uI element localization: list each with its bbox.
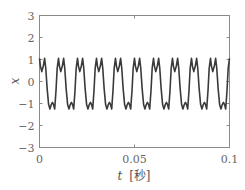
y-tick-label: 1 (28, 54, 35, 67)
y-tick-label: 0 (28, 76, 35, 89)
y-tick-label: 2 (28, 32, 35, 45)
y-tick-label: −1 (18, 98, 34, 111)
x-tick-label: 0 (36, 153, 43, 166)
plot-area: −3−2−10123 00.050.1 (18, 10, 238, 166)
x-axis-label-variable: t (117, 169, 122, 183)
y-axis-label: x (8, 77, 22, 84)
x-tick-label: 0.05 (122, 153, 147, 166)
y-tick-label: −3 (18, 142, 34, 155)
y-tick-label: 3 (28, 10, 35, 23)
x-axis-label: t [秒] (117, 169, 150, 183)
x-axis-label-unit: [秒] (129, 169, 150, 183)
line-chart: −3−2−10123 00.050.1 x t [秒] (0, 0, 245, 190)
plot-frame (40, 16, 230, 148)
y-tick-label: −2 (18, 120, 34, 133)
y-axis-ticks: −3−2−10123 (18, 10, 229, 155)
data-series-line (40, 58, 230, 109)
x-tick-label: 0.1 (221, 153, 239, 166)
